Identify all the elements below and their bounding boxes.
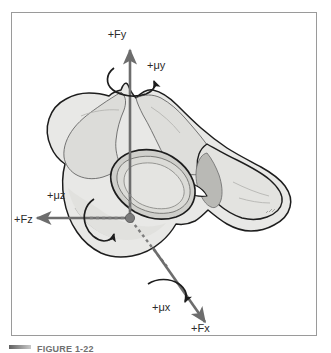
vertebra-illustration [47, 83, 291, 257]
label-mux: +μx [152, 301, 171, 313]
figure-root: +Fy +μy +Fz +μz +Fx +μx FIGURE 1-22 [0, 0, 331, 353]
vertebra-force-diagram: +Fy +μy +Fz +μz +Fx +μx [11, 12, 317, 336]
label-fz: +Fz [14, 213, 33, 225]
mux-rotation-arrow [148, 280, 186, 303]
label-fx: +Fx [191, 322, 210, 334]
origin-dot [125, 213, 134, 222]
caption-rule-marker [9, 345, 31, 349]
figure-caption-text: FIGURE 1-22 [37, 344, 94, 353]
figure-caption-row: FIGURE 1-22 [0, 343, 331, 353]
label-fy: +Fy [108, 28, 127, 40]
label-muz: +μz [47, 189, 65, 201]
label-muy: +μy [147, 59, 166, 71]
